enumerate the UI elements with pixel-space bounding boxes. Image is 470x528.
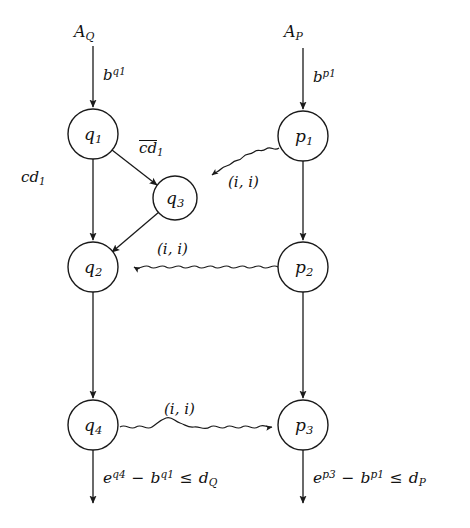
node-label-p3: p3 [295,417,313,437]
node-label-q3: q3 [166,190,184,210]
edge-p2-q2-wavy [134,266,278,268]
edge-label-cd1: cd1 [21,170,46,187]
sync-label-p2-q2: (i, i) [157,242,188,257]
clock-label-bp1: bp1 [313,69,336,85]
entry-label-ap: AP [284,24,303,43]
node-label-q2: q2 [84,259,102,279]
clock-label-bq1: bq1 [103,67,126,83]
guard-label-q: eq4 − bq1 ≤ dQ [103,469,217,488]
edge-q3-q2 [112,212,159,252]
sync-label-q4-p3: (i, i) [164,402,195,417]
node-label-p2: p2 [295,259,313,279]
diagram-graphics [0,0,470,528]
guard-label-p: ep3 − bp1 ≤ dP [313,469,426,488]
node-label-q1: q1 [84,126,102,146]
node-label-p1: p1 [295,128,313,148]
entry-label-aq: AQ [74,24,94,43]
edge-p1-q3-wavy [212,148,279,175]
diagram-canvas: q1 q3 q2 q4 p1 p2 p3 AQ AP bq1 bp1 cd1 c… [0,0,470,528]
edge-label-cd1-bar: cd1 [139,140,164,158]
node-label-q4: q4 [84,417,102,437]
edge-q4-p3-wavy [120,418,272,429]
sync-label-p1-q3: (i, i) [228,175,259,190]
